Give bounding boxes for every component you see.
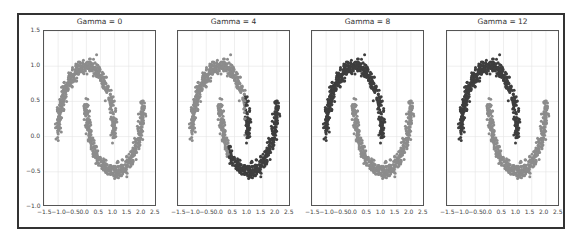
x-tick-label: 1.5 [122, 208, 132, 215]
subplot-3-plot-area [311, 30, 424, 206]
x-tick-label: −1.5 [440, 208, 455, 215]
x-tick-label: 1.0 [108, 208, 118, 215]
x-tick-label: −1.5 [305, 208, 320, 215]
x-tick-label: −1.5 [171, 208, 186, 215]
y-tick-label: −1.0 [26, 202, 40, 209]
x-tick-label: −0.5 [199, 208, 214, 215]
y-tick-label: −0.5 [26, 167, 40, 174]
x-tick-label: 0.0 [347, 208, 357, 215]
x-tick-label: −1.0 [51, 208, 66, 215]
x-tick-label: 1.0 [242, 208, 252, 215]
scatter-points [447, 31, 559, 206]
y-tick-label: 1.0 [26, 61, 40, 68]
x-tick-label: 1.0 [511, 208, 521, 215]
x-tick-label: 0.0 [79, 208, 89, 215]
x-tick-label: −0.5 [333, 208, 348, 215]
x-tick-label: −1.0 [185, 208, 200, 215]
x-tick-label: −1.0 [319, 208, 334, 215]
x-tick-label: 2.0 [270, 208, 280, 215]
x-tick-label: −1.5 [37, 208, 52, 215]
x-tick-label: 2.0 [404, 208, 414, 215]
subplot-title: Gamma = 8 [311, 17, 424, 26]
subplot-title: Gamma = 0 [43, 17, 156, 26]
y-tick-label: 1.5 [26, 26, 40, 33]
x-tick-label: 1.5 [390, 208, 400, 215]
x-tick-label: 2.5 [150, 208, 160, 215]
y-tick-label: 0.0 [26, 132, 40, 139]
subplot-1-plot-area [43, 30, 156, 206]
x-tick-label: −0.5 [65, 208, 80, 215]
x-tick-label: 0.5 [497, 208, 507, 215]
x-tick-label: 2.5 [418, 208, 428, 215]
scatter-points [312, 31, 424, 206]
scatter-points [44, 31, 156, 206]
x-tick-label: 0.5 [228, 208, 238, 215]
y-tick-label: 0.5 [26, 96, 40, 103]
x-tick-label: 0.0 [482, 208, 492, 215]
x-tick-label: 2.0 [136, 208, 146, 215]
x-tick-label: 1.5 [525, 208, 535, 215]
subplot-title: Gamma = 12 [446, 17, 559, 26]
x-tick-label: 2.5 [284, 208, 294, 215]
x-tick-label: −1.0 [454, 208, 469, 215]
subplot-4-plot-area [446, 30, 559, 206]
x-tick-label: 0.0 [213, 208, 223, 215]
subplot-title: Gamma = 4 [177, 17, 290, 26]
x-tick-label: 2.5 [553, 208, 563, 215]
scatter-points [178, 31, 290, 206]
x-tick-label: 1.0 [376, 208, 386, 215]
x-tick-label: 0.5 [94, 208, 104, 215]
x-tick-label: 0.5 [362, 208, 372, 215]
subplot-2-plot-area [177, 30, 290, 206]
x-tick-label: 1.5 [256, 208, 266, 215]
x-tick-label: 2.0 [539, 208, 549, 215]
x-tick-label: −0.5 [468, 208, 483, 215]
